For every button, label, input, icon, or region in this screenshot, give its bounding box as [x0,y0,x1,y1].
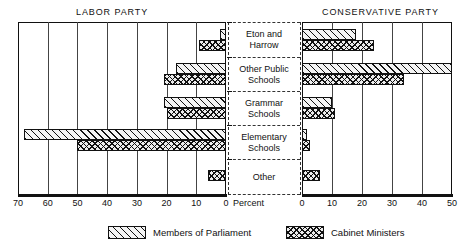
chart-legend: Members of Parliament Cabinet Ministers [0,226,472,248]
panel-title-conservative: CONSERVATIVE PARTY [322,7,439,17]
gridline-left-50 [77,22,78,195]
xtick-conservative-40: 40 [411,198,433,208]
xtick-conservative-30: 30 [381,198,403,208]
category-label-column: Eton and Harrow Other Public Schools Gra… [228,22,300,195]
category-line-1: Grammar [245,98,283,108]
tickmark-outer-top-left [227,22,232,23]
gridline-left-30 [137,22,138,195]
bar-labor-cabinet-grammar-schools [167,108,226,119]
category-line-2: Schools [248,109,280,119]
bar-conservative-cabinet-eton-and-harrow [302,40,374,51]
legend-swatch-cross-hatch-icon [286,226,324,239]
bar-conservative-mp-other-public-schools [302,63,452,74]
bar-labor-cabinet-elementary-schools [77,140,226,151]
xtick-conservative-50: 50 [441,198,463,208]
xtick-labor-50: 50 [66,198,88,208]
category-cell-other-public-schools: Other Public Schools [228,57,300,91]
tickmark-outer-left-1 [227,57,232,58]
category-line-2: Harrow [249,40,278,50]
category-label-eton-and-harrow: Eton and Harrow [246,29,282,51]
legend-label-cabinet-ministers: Cabinet Ministers [331,227,404,238]
bar-labor-cabinet-other [208,170,226,181]
gridline-right-40 [422,22,423,195]
xtick-labor-70: 70 [7,198,29,208]
legend-label-members-of-parliament: Members of Parliament [153,227,251,238]
category-line-2: Schools [248,75,280,85]
bar-conservative-cabinet-other [302,170,320,181]
tickmark-outer-left-4 [227,159,232,160]
bar-conservative-mp-grammar-schools [302,97,332,108]
butterfly-bar-chart: LABOR PARTY CONSERVATIVE PARTY 70 60 50 … [0,0,472,252]
category-cell-other: Other [228,159,300,195]
axis-baseline-labor [18,194,227,197]
gridline-right-30 [392,22,393,195]
category-label-other-public-schools: Other Public Schools [239,64,289,86]
bar-conservative-mp-eton-and-harrow [302,29,356,40]
bar-labor-mp-eton-and-harrow [220,29,226,40]
panel-title-labor: LABOR PARTY [76,7,148,17]
xtick-conservative-20: 20 [351,198,373,208]
category-label-elementary-schools: Elementary Schools [241,132,287,154]
category-line-1: Other Public [239,64,289,74]
gridline-left-40 [107,22,108,195]
category-cell-elementary-schools: Elementary Schools [228,125,300,159]
tickmark-outer-left-2 [227,91,232,92]
legend-swatch-diagonal-hatch-icon [108,226,146,239]
xtick-labor-20: 20 [156,198,178,208]
bar-labor-cabinet-eton-and-harrow [199,40,226,51]
axis-baseline-conservative [302,194,453,197]
axis-label-percent: Percent [233,198,264,208]
xtick-conservative-0: 0 [291,198,313,208]
bar-conservative-cabinet-grammar-schools [302,108,335,119]
bar-conservative-cabinet-elementary-schools [302,140,310,151]
xtick-labor-40: 40 [96,198,118,208]
category-line-2: Schools [248,143,280,153]
category-label-grammar-schools: Grammar Schools [245,98,283,120]
category-line-1: Eton and [246,29,282,39]
xtick-conservative-10: 10 [321,198,343,208]
gridline-left-60 [48,22,49,195]
bar-labor-mp-elementary-schools [24,129,226,140]
bar-conservative-cabinet-other-public-schools [302,74,404,85]
category-cell-eton-and-harrow: Eton and Harrow [228,22,300,57]
tickmark-outer-left-3 [227,125,232,126]
bar-labor-mp-grammar-schools [164,97,226,108]
legend-item-members-of-parliament: Members of Parliament [108,226,251,239]
bar-labor-cabinet-other-public-schools [164,74,226,85]
category-label-other: Other [253,172,276,183]
bar-conservative-mp-elementary-schools [302,129,307,140]
category-line-1: Elementary [241,132,287,142]
bar-labor-mp-other-public-schools [176,63,227,74]
xtick-labor-10: 10 [185,198,207,208]
xtick-labor-60: 60 [37,198,59,208]
xtick-labor-30: 30 [126,198,148,208]
center-column-right-edge [300,22,301,195]
legend-item-cabinet-ministers: Cabinet Ministers [286,226,404,239]
category-cell-grammar-schools: Grammar Schools [228,91,300,125]
